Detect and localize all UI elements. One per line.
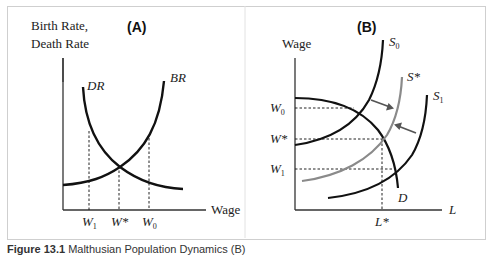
- br-curve: [63, 81, 164, 185]
- panel-b-tick-lstar: L*: [374, 214, 389, 229]
- panel-b-y-label: Wage: [282, 36, 311, 51]
- dr-label: DR: [86, 78, 104, 93]
- panel-b-tick-w1: W1: [270, 161, 285, 178]
- panel-a-y-label-line2: Death Rate: [31, 36, 89, 51]
- demand-label: D: [397, 190, 408, 205]
- panel-a-tick-w1: W1: [82, 214, 97, 231]
- panel-a-tick-w0: W0: [142, 214, 157, 231]
- sstar-label: S*: [407, 69, 421, 84]
- panel-b-tick-w0: W0: [270, 100, 285, 117]
- s0-label: S0: [389, 34, 400, 51]
- figure-caption: Figure 13.1 Malthusian Population Dynami…: [7, 243, 245, 255]
- panel-b: Wage (B) L D S0 S* S1 W0: [270, 19, 456, 229]
- br-label: BR: [170, 70, 186, 85]
- panel-a-tick-wstar: W*: [111, 214, 129, 229]
- sstar-curve: [302, 77, 402, 181]
- s0-curve: [295, 40, 383, 145]
- caption-text: Malthusian Population Dynamics (B): [68, 243, 245, 255]
- panel-a-y-label-line1: Birth Rate,: [31, 18, 88, 33]
- panel-a-title: (A): [127, 19, 146, 35]
- panel-b-x-label: L: [448, 202, 456, 217]
- arrow-s1-to-sstar: [394, 123, 416, 134]
- panel-b-title: (B): [357, 19, 376, 35]
- arrow-s0-to-sstar: [371, 100, 394, 111]
- caption-label: Figure 13.1: [7, 243, 65, 255]
- s1-label: S1: [433, 88, 444, 105]
- panel-a: Birth Rate, Death Rate (A) Wage DR BR W1…: [31, 18, 240, 231]
- figure-canvas: Birth Rate, Death Rate (A) Wage DR BR W1…: [0, 0, 490, 256]
- panel-b-tick-wstar: W*: [270, 131, 288, 146]
- dr-curve: [83, 87, 183, 189]
- panel-a-x-label: Wage: [211, 202, 240, 217]
